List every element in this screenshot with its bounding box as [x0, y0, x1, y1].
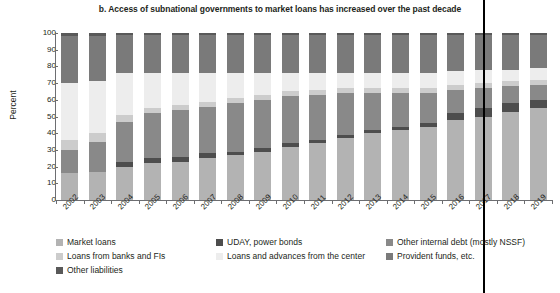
- bar-segment: [227, 103, 244, 151]
- bar-segment: [116, 122, 133, 162]
- bar-segment: [282, 73, 299, 91]
- bar-segment: [420, 73, 437, 88]
- bar-segment: [254, 73, 271, 95]
- bar-2009[interactable]: [254, 33, 271, 200]
- y-tick-label: 40: [30, 129, 56, 137]
- bar-2008[interactable]: [227, 33, 244, 200]
- bar-segment: [254, 100, 271, 148]
- bar-2013[interactable]: [364, 33, 381, 200]
- legend-item[interactable]: Other internal debt (mostly NSSF): [386, 238, 525, 247]
- bar-segment: [530, 108, 547, 200]
- bar-2006[interactable]: [172, 33, 189, 200]
- legend-swatch-icon: [386, 253, 393, 260]
- bar-segment: [227, 73, 244, 98]
- bar-2004[interactable]: [116, 33, 133, 200]
- legend-item[interactable]: UDAY, power bonds: [216, 238, 302, 247]
- x-tick-mark: [497, 200, 498, 204]
- bar-segment: [89, 36, 106, 81]
- bar-segment: [282, 35, 299, 73]
- x-tick-mark: [332, 200, 333, 204]
- bar-segment: [392, 130, 409, 200]
- legend-item[interactable]: Loans and advances from the center: [216, 252, 365, 261]
- bar-segment: [337, 93, 354, 135]
- bar-segment: [364, 73, 381, 88]
- bar-2018[interactable]: [502, 33, 519, 200]
- x-tick-mark: [221, 200, 222, 204]
- bar-segment: [337, 35, 354, 73]
- x-tick-mark: [111, 200, 112, 204]
- x-tick-mark: [249, 200, 250, 204]
- legend-item[interactable]: Loans from banks and FIs: [56, 252, 165, 261]
- bar-segment: [116, 115, 133, 122]
- bar-segment: [502, 103, 519, 111]
- bar-segment: [530, 68, 547, 80]
- bar-segment: [337, 138, 354, 200]
- bar-2002[interactable]: [61, 33, 78, 200]
- bar-2005[interactable]: [144, 33, 161, 200]
- bar-segment: [61, 150, 78, 173]
- bar-2012[interactable]: [337, 33, 354, 200]
- bar-segment: [89, 81, 106, 133]
- bar-segment: [61, 36, 78, 83]
- bar-2007[interactable]: [199, 33, 216, 200]
- x-tick-mark: [442, 200, 443, 204]
- legend-label: Loans from banks and FIs: [67, 252, 165, 261]
- bar-segment: [502, 112, 519, 201]
- chart-figure: b. Access of subnational governments to …: [0, 0, 560, 293]
- x-tick-mark: [84, 200, 85, 204]
- bar-segment: [199, 35, 216, 73]
- bar-segment: [530, 85, 547, 100]
- y-tick-label: 90: [30, 46, 56, 54]
- bar-segment: [364, 133, 381, 200]
- bar-2010[interactable]: [282, 33, 299, 200]
- legend-swatch-icon: [216, 253, 223, 260]
- legend-swatch-icon: [216, 239, 223, 246]
- bar-segment: [254, 35, 271, 73]
- legend-label: UDAY, power bonds: [227, 238, 302, 247]
- bar-2014[interactable]: [392, 33, 409, 200]
- bar-segment: [447, 120, 464, 200]
- x-tick-mark: [469, 200, 470, 204]
- bar-segment: [89, 142, 106, 172]
- bar-segment: [420, 35, 437, 73]
- bar-segment: [227, 155, 244, 200]
- y-tick-label: 80: [30, 62, 56, 70]
- bar-2003[interactable]: [89, 33, 106, 200]
- bar-segment: [61, 83, 78, 140]
- bar-2011[interactable]: [309, 33, 326, 200]
- bar-2016[interactable]: [447, 33, 464, 200]
- x-tick-mark: [194, 200, 195, 204]
- x-tick-mark: [139, 200, 140, 204]
- chart-title: b. Access of subnational governments to …: [0, 4, 560, 14]
- y-tick-label: 20: [30, 163, 56, 171]
- bar-segment: [502, 86, 519, 103]
- legend-item[interactable]: Other liabilities: [56, 266, 123, 275]
- bar-2019[interactable]: [530, 33, 547, 200]
- y-tick-label: 70: [30, 79, 56, 87]
- bar-segment: [227, 35, 244, 73]
- x-tick-mark: [414, 200, 415, 204]
- bar-segment: [144, 113, 161, 158]
- bar-segment: [172, 35, 189, 73]
- bar-segment: [89, 133, 106, 141]
- legend-label: Loans and advances from the center: [227, 252, 365, 261]
- bar-segment: [309, 73, 326, 90]
- bar-segment: [309, 95, 326, 140]
- y-tick-label: 30: [30, 146, 56, 154]
- legend-item[interactable]: Provident funds, etc.: [386, 252, 475, 261]
- bar-segment: [447, 113, 464, 120]
- legend-label: Other liabilities: [67, 266, 123, 275]
- bar-segment: [502, 35, 519, 70]
- bar-segment: [172, 110, 189, 157]
- legend-label: Other internal debt (mostly NSSF): [397, 238, 525, 247]
- x-tick-mark: [387, 200, 388, 204]
- legend-item[interactable]: Market loans: [56, 238, 116, 247]
- bar-segment: [116, 35, 133, 73]
- y-tick-label: 100: [30, 29, 56, 37]
- bar-segment: [392, 35, 409, 73]
- x-tick-mark: [56, 200, 57, 204]
- bar-segment: [309, 35, 326, 73]
- bar-2015[interactable]: [420, 33, 437, 200]
- x-tick-mark: [524, 200, 525, 204]
- bar-segment: [282, 96, 299, 143]
